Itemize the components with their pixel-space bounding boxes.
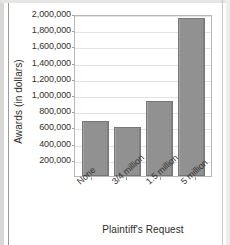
page-rule-right [222, 0, 223, 245]
bar [178, 18, 205, 176]
y-axis-tick-label: 1,400,000 [32, 58, 71, 69]
y-axis-labels: 2,000,0001,800,0001,600,0001,400,0001,20… [0, 0, 71, 245]
y-axis-tick-label: 1,800,000 [32, 25, 71, 36]
y-axis-tick-label: 1,000,000 [32, 90, 71, 101]
x-axis-labels: None3/4 million1.5 million5 million [74, 177, 212, 222]
bar-cell [113, 16, 141, 176]
bar-cell [145, 16, 173, 176]
y-axis-tick-label: 800,000 [39, 106, 71, 117]
y-axis-tick-label: 1,600,000 [32, 41, 71, 52]
y-axis-tick-label: 200,000 [39, 155, 71, 166]
page-edge-right [226, 0, 230, 245]
y-axis-title: Awards (in dollars) [13, 37, 24, 167]
plot-area [74, 15, 212, 177]
y-axis-tick-label: 400,000 [39, 139, 71, 150]
bar-cell [177, 16, 205, 176]
bar-series [75, 16, 211, 176]
x-axis-title: Plaintiff's Request [74, 224, 212, 235]
y-axis-tick-label: 1,200,000 [32, 74, 71, 85]
bar-cell [81, 16, 109, 176]
y-axis-tick-label: 600,000 [39, 122, 71, 133]
y-axis-tick-label: 2,000,000 [32, 9, 71, 20]
chart-page: 2,000,0001,800,0001,600,0001,400,0001,20… [0, 0, 230, 245]
